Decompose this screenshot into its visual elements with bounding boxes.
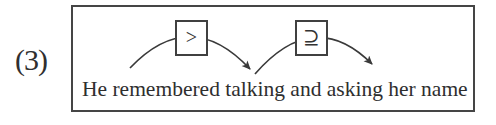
temporal-arcs-layer <box>0 0 496 125</box>
relation-box-1: > <box>175 20 208 56</box>
relation-symbol-1: > <box>186 27 197 47</box>
linguistics-example-figure: (3) > ⊇ He remembered talking and asking… <box>0 0 496 125</box>
relation-symbol-2: ⊇ <box>303 27 320 47</box>
relation-box-2: ⊇ <box>295 20 328 56</box>
example-sentence: He remembered talking and asking her nam… <box>82 77 468 102</box>
